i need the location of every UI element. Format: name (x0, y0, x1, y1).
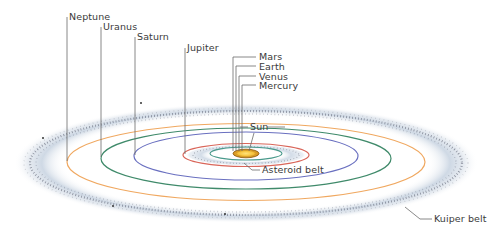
saturn-label: Saturn (137, 31, 169, 42)
mercury-label: Mercury (259, 80, 298, 91)
solar-system-diagram (0, 0, 497, 235)
kuiper-belt-leader (405, 207, 432, 219)
sun-label: Sun (250, 121, 268, 132)
asteroid-belt-label: Asteroid belt (262, 164, 324, 175)
kuiper-belt-label: Kuiper belt (434, 213, 487, 224)
sun (233, 149, 259, 158)
uranus-label: Uranus (103, 21, 137, 32)
jupiter-label: Jupiter (187, 42, 219, 53)
